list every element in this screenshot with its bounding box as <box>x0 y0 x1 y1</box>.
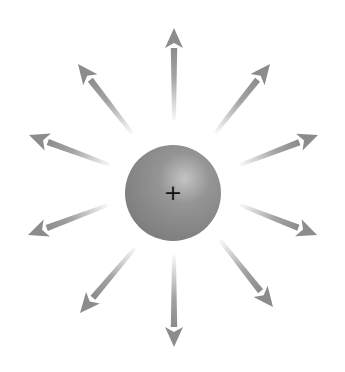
field-arrow-down <box>165 255 183 347</box>
field-arrow-upper-right <box>213 64 270 134</box>
arrowhead-icon <box>165 28 183 48</box>
arrowhead-icon <box>165 327 183 347</box>
field-arrow-up <box>165 28 183 120</box>
arrowhead-icon <box>296 134 318 151</box>
electric-field-diagram: + <box>0 0 345 372</box>
plus-sign-icon: + <box>164 182 182 204</box>
arrowhead-icon <box>28 220 50 237</box>
field-arrow-left-down <box>28 203 109 236</box>
field-arrow-lower-right <box>218 239 273 307</box>
arrowhead-icon <box>29 134 51 151</box>
field-arrow-right-down <box>239 203 317 236</box>
field-arrow-right-up <box>239 134 318 167</box>
field-arrow-upper-left <box>78 64 134 134</box>
field-arrow-left-up <box>29 134 111 167</box>
field-arrow-lower-left <box>80 247 136 313</box>
arrowhead-icon <box>295 219 317 236</box>
